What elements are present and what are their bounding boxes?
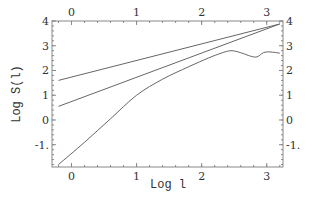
x-tick-label-bottom: 1 [133, 170, 140, 183]
y-axis-label: Log S(l) [10, 65, 24, 123]
y-tick-label-right: -1. [286, 139, 300, 152]
x-tick-label-bottom: 0 [68, 170, 75, 183]
y-tick-label-left: 0 [42, 114, 49, 127]
x-tick-label-bottom: 2 [198, 170, 205, 183]
series-middle-line [59, 24, 280, 106]
y-tick-label-left: -1. [35, 139, 49, 152]
y-tick-label-right: 3 [286, 40, 293, 53]
y-tick-label-right: 1 [286, 89, 293, 102]
x-tick-label-top: 1 [133, 6, 140, 19]
y-tick-label-right: 2 [286, 64, 293, 77]
x-tick-label-top: 3 [263, 6, 270, 19]
y-tick-label-left: 2 [42, 64, 49, 77]
x-axis-label: Log l [150, 178, 186, 192]
y-tick-label-left: 4 [42, 15, 49, 28]
y-tick-label-right: 0 [286, 114, 293, 127]
x-tick-label-top: 0 [68, 6, 75, 19]
plot-area [59, 24, 280, 165]
series-measured-curve [59, 51, 280, 165]
plot-frame [52, 21, 283, 167]
axes: 001122334433221100-1.-1. [35, 6, 300, 183]
x-tick-label-bottom: 3 [263, 170, 270, 183]
x-tick-label-top: 2 [198, 6, 205, 19]
series-upper-line [59, 24, 280, 80]
y-tick-label-right: 4 [286, 15, 293, 28]
chart: 001122334433221100-1.-1. Log l Log S(l) [0, 0, 314, 203]
y-tick-label-left: 1 [42, 89, 49, 102]
y-tick-label-left: 3 [42, 40, 49, 53]
